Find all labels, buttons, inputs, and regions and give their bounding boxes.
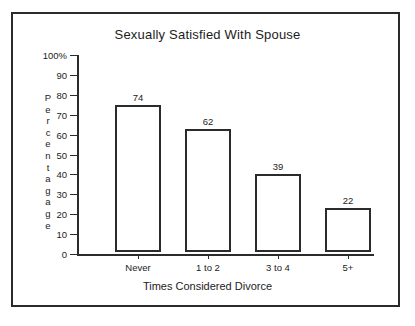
y-axis-tick-label: 90 xyxy=(56,69,67,80)
y-axis-tick-label: 40 xyxy=(56,169,67,180)
y-axis-title-letter: n xyxy=(41,150,55,162)
y-axis-title-letter: g xyxy=(41,185,55,197)
bar-value-label: 39 xyxy=(273,161,284,172)
x-axis-category-label: 1 to 2 xyxy=(196,262,220,273)
y-axis-title-letter: g xyxy=(41,208,55,220)
plot-area: 100%9080706050403020100 74623922 Never1 … xyxy=(77,55,374,254)
y-axis-tick-label: 0 xyxy=(62,249,67,260)
x-axis-category-label: 3 to 4 xyxy=(266,262,290,273)
y-axis-tick-mark xyxy=(70,174,77,175)
y-axis-tick-mark xyxy=(70,194,77,195)
y-axis-tick-label: 100% xyxy=(43,50,67,61)
y-axis-tick-mark xyxy=(70,234,77,235)
y-axis-title: Percentagage xyxy=(41,92,55,231)
y-axis-tick-label: 50 xyxy=(56,149,67,160)
figure-frame: Sexually Satisfied With Spouse Percentag… xyxy=(11,12,400,307)
x-axis-category-label: Never xyxy=(125,262,150,273)
y-axis-title-letter: a xyxy=(41,196,55,208)
x-axis-title: Times Considered Divorce xyxy=(13,280,402,292)
y-axis-tick-mark xyxy=(70,115,77,116)
bar-group: 74 xyxy=(115,53,161,252)
x-axis-tick-mark xyxy=(348,254,349,259)
y-axis-title-letter: e xyxy=(41,220,55,232)
x-axis-line xyxy=(77,254,374,256)
bar-group: 62 xyxy=(185,53,231,252)
bar[interactable]: 22 xyxy=(325,208,371,252)
y-axis-title-letter: t xyxy=(41,162,55,174)
y-axis-tick-label: 20 xyxy=(56,209,67,220)
x-axis-tick-mark xyxy=(278,254,279,259)
y-axis-title-letter: e xyxy=(41,138,55,150)
bar-value-label: 22 xyxy=(343,195,354,206)
y-axis-title-letter: a xyxy=(41,173,55,185)
y-axis-tick-label: 80 xyxy=(56,89,67,100)
y-axis-tick-mark xyxy=(70,95,77,96)
y-axis-tick-mark xyxy=(70,254,77,255)
x-axis-tick-mark xyxy=(208,254,209,259)
bar-group: 22 xyxy=(325,53,371,252)
y-axis-title-letter: P xyxy=(41,92,55,104)
bar[interactable]: 74 xyxy=(115,105,161,252)
x-axis-tick-mark xyxy=(138,254,139,259)
y-axis-tick-label: 10 xyxy=(56,229,67,240)
bar-value-label: 74 xyxy=(133,92,144,103)
y-axis-tick-mark xyxy=(70,155,77,156)
y-axis-tick-mark xyxy=(70,135,77,136)
y-axis-tick-mark xyxy=(70,55,77,56)
y-axis-tick-label: 30 xyxy=(56,189,67,200)
y-axis-tick-label: 70 xyxy=(56,109,67,120)
y-axis-tick-label: 60 xyxy=(56,129,67,140)
chart-title: Sexually Satisfied With Spouse xyxy=(13,27,402,42)
bar[interactable]: 39 xyxy=(255,174,301,252)
page-caption-clipped xyxy=(24,313,394,326)
y-axis-title-letter: e xyxy=(41,104,55,116)
y-axis-tick-mark xyxy=(70,214,77,215)
y-axis-title-letter: r xyxy=(41,115,55,127)
y-axis-tick-mark xyxy=(70,75,77,76)
bar[interactable]: 62 xyxy=(185,129,231,252)
bar-group: 39 xyxy=(255,53,301,252)
y-axis-line xyxy=(77,55,79,255)
bar-value-label: 62 xyxy=(203,116,214,127)
y-axis-title-letter: c xyxy=(41,127,55,139)
x-axis-category-label: 5+ xyxy=(343,262,354,273)
